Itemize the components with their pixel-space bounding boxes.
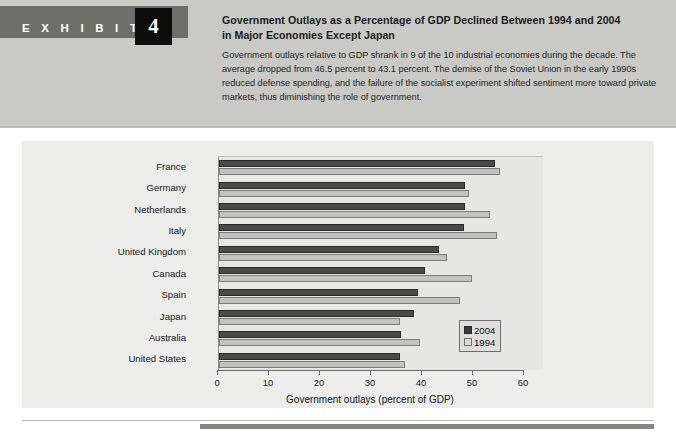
y-axis-label: Germany: [56, 182, 186, 193]
x-axis-tick-label: 0: [202, 377, 232, 388]
exhibit-header-text: Government Outlays as a Percentage of GD…: [222, 13, 662, 104]
x-axis-tick-label: 40: [406, 377, 436, 388]
bar-1994: [219, 232, 497, 239]
bar-2004: [219, 353, 400, 360]
exhibit-title-line-2: in Major Economies Except Japan: [222, 29, 395, 41]
legend-item: 2004: [464, 324, 495, 336]
bar-2004: [219, 160, 495, 167]
exhibit-label: E X H I B I T: [22, 22, 141, 34]
legend-item: 1994: [464, 336, 495, 348]
bar-2004: [219, 267, 425, 274]
exhibit-number: 4: [135, 8, 172, 45]
x-axis-tick: [472, 370, 473, 375]
legend-swatch-1994-icon: [464, 338, 472, 346]
bar-2004: [219, 203, 465, 210]
footer-rule-thin: [22, 420, 654, 421]
y-axis-label: Australia: [56, 332, 186, 343]
x-axis-tick-label: 60: [508, 377, 538, 388]
footer-rule-thick: [200, 424, 654, 429]
bar-2004: [219, 182, 465, 189]
exhibit-number-box: 4: [135, 8, 172, 45]
bar-2004: [219, 289, 418, 296]
bar-1994: [219, 168, 500, 175]
y-axis-category-labels: FranceGermanyNetherlandsItalyUnited King…: [60, 156, 192, 370]
x-axis-tick-label: 50: [457, 377, 487, 388]
exhibit-header-band: E X H I B I T 4 Government Outlays as a …: [0, 0, 676, 128]
bar-2004: [219, 224, 464, 231]
exhibit-description: Government outlays relative to GDP shran…: [222, 48, 662, 104]
y-axis-label: Japan: [56, 311, 186, 322]
bar-1994: [219, 339, 420, 346]
x-axis-title: Government outlays (percent of GDP): [217, 394, 523, 405]
bar-1994: [219, 211, 490, 218]
bar-2004: [219, 246, 439, 253]
y-axis-label: Italy: [56, 225, 186, 236]
bar-1994: [219, 275, 472, 282]
bar-1994: [219, 318, 400, 325]
y-axis-label: France: [56, 161, 186, 172]
bar-1994: [219, 297, 460, 304]
legend-label-2004: 2004: [474, 325, 495, 336]
x-axis-tick: [268, 370, 269, 375]
exhibit-page: E X H I B I T 4 Government Outlays as a …: [0, 0, 676, 440]
bar-1994: [219, 190, 469, 197]
x-axis-tick: [217, 370, 218, 375]
y-axis-label: United States: [56, 353, 186, 364]
y-axis-label: United Kingdom: [56, 246, 186, 257]
bar-2004: [219, 310, 414, 317]
bar-2004: [219, 331, 401, 338]
y-axis-label: Netherlands: [56, 204, 186, 215]
exhibit-title-line-1: Government Outlays as a Percentage of GD…: [222, 14, 620, 26]
bar-1994: [219, 361, 405, 368]
chart-legend: 2004 1994: [459, 320, 501, 352]
x-axis-tick-label: 10: [253, 377, 283, 388]
y-axis-label: Spain: [56, 289, 186, 300]
x-axis-tick-label: 20: [304, 377, 334, 388]
exhibit-title: Government Outlays as a Percentage of GD…: [222, 13, 662, 42]
x-axis-tick: [421, 370, 422, 375]
x-axis-tick: [319, 370, 320, 375]
x-axis-tick-label: 30: [355, 377, 385, 388]
bar-1994: [219, 254, 447, 261]
legend-swatch-2004-icon: [464, 326, 472, 334]
x-axis-tick: [523, 370, 524, 375]
legend-label-1994: 1994: [474, 337, 495, 348]
x-axis-tick: [370, 370, 371, 375]
y-axis-label: Canada: [56, 268, 186, 279]
